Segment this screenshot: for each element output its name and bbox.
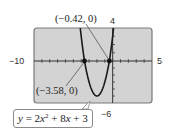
eq-part: + 8	[49, 112, 66, 124]
y-min-label: −6	[101, 109, 111, 119]
eq-part: = 2	[23, 112, 40, 124]
point-label-left-intercept: (−3.58, 0)	[36, 85, 78, 97]
equation-label: y = 2x2 + 8x + 3	[13, 109, 93, 128]
x-max-label: 5	[157, 56, 162, 66]
eq-part: + 3	[71, 112, 88, 124]
point-label-right-intercept: (−0.42, 0)	[55, 13, 97, 25]
eq-exponent: 2	[45, 112, 49, 120]
x-min-label: −10	[9, 56, 24, 66]
y-max-label: 4	[110, 16, 115, 26]
